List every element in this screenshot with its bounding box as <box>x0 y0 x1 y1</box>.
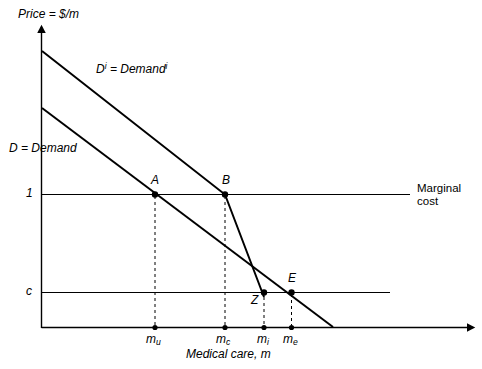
x-tick-label-me-sub: e <box>293 337 298 347</box>
x-tick-mc <box>222 325 227 330</box>
point-Z-marker <box>261 289 267 295</box>
x-tick-label-mi-base: m <box>257 332 267 346</box>
point-E-label: E <box>288 272 296 286</box>
x-tick-label-mi-sub: i <box>267 337 269 347</box>
marginal-cost-label: Marginal cost <box>417 182 461 208</box>
demand-insured-label-prefix: D <box>96 62 105 76</box>
point-E-marker <box>288 289 294 295</box>
x-tick-label-mu-sub: u <box>156 337 161 347</box>
x-tick-label-mc-base: m <box>216 332 226 346</box>
x-tick-mu <box>152 325 157 330</box>
point-B-marker <box>222 191 228 197</box>
point-B-label: B <box>222 174 230 188</box>
y-tick-label-one: 1 <box>26 187 33 201</box>
demand-insured-label-sup2: i <box>166 61 168 71</box>
economics-diagram <box>0 0 482 369</box>
x-tick-label-me-base: m <box>283 332 293 346</box>
x-axis-title: Medical care, m <box>186 348 271 362</box>
y-tick-label-c: c <box>26 285 32 299</box>
demand-insured-label: Di = Demandi <box>96 62 167 76</box>
x-tick-label-mi: mi <box>257 333 269 348</box>
point-A-label: A <box>151 174 159 188</box>
point-Z-label: Z <box>251 294 258 308</box>
x-tick-label-mu: mu <box>146 333 161 348</box>
demand-label: D = Demand <box>9 142 77 156</box>
x-tick-me <box>289 325 294 330</box>
x-tick-label-me: me <box>283 333 298 348</box>
x-tick-mi <box>261 325 266 330</box>
marginal-cost-label-line2: cost <box>417 195 461 208</box>
demand-insured-label-middle: = Demand <box>107 62 166 76</box>
x-tick-label-mc: mc <box>216 333 230 348</box>
point-A-marker <box>152 191 158 197</box>
x-tick-label-mc-sub: c <box>226 337 230 347</box>
y-axis-title: Price = $/m <box>18 8 79 22</box>
figure-canvas: Price = $/m Medical care, m Di = Demandi… <box>0 0 482 369</box>
marginal-cost-label-line1: Marginal <box>417 182 461 195</box>
x-tick-label-mu-base: m <box>146 332 156 346</box>
